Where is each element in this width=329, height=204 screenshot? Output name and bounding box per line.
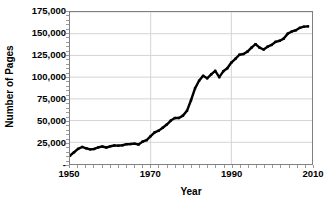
y-axis-title-text: Number of Pages — [4, 45, 15, 127]
x-axis-title: Year — [69, 186, 313, 197]
y-tick-label: 50,000 — [18, 116, 66, 126]
vertical-gridlines — [151, 12, 232, 164]
y-tick-label: 150,000 — [18, 28, 66, 38]
plot-area — [69, 11, 313, 165]
plot-svg — [70, 12, 312, 164]
x-tick-label: 1990 — [221, 168, 242, 179]
x-tick-label: 2010 — [302, 168, 323, 179]
horizontal-gridlines — [70, 12, 312, 142]
y-tick-label: 25,000 — [18, 138, 66, 148]
y-axis-title: Number of Pages — [0, 0, 18, 172]
y-tick-label: 75,000 — [18, 94, 66, 104]
x-tick-label: 1950 — [58, 168, 79, 179]
y-tick-label: 100,000 — [18, 72, 66, 82]
y-tick-label: 125,000 — [18, 50, 66, 60]
y-tick-label: 175,000 — [18, 6, 66, 16]
x-tick-label: 1970 — [140, 168, 161, 179]
x-axis-tick-labels: 1950197019902010 — [69, 168, 313, 182]
chart-container: Number of Pages 175,000150,000125,000100… — [0, 0, 329, 204]
